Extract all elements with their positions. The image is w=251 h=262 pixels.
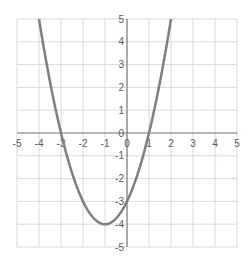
y-tick-label: 0 (118, 128, 124, 139)
x-tick-label: -5 (13, 138, 22, 149)
x-tick-label: 5 (234, 138, 240, 149)
y-tick-label: 4 (118, 36, 124, 47)
parabola-chart: -5-4-3-2-1012345 -5-4-3-2-1012345 (0, 0, 251, 262)
y-tick-label: -1 (115, 150, 124, 161)
y-tick-label: 2 (118, 82, 124, 93)
x-tick-label: -4 (35, 138, 44, 149)
y-tick-label: -5 (115, 242, 124, 253)
x-axis-tick-labels: -5-4-3-2-1012345 (13, 138, 241, 149)
y-tick-label: 1 (118, 105, 124, 116)
x-tick-label: 0 (124, 138, 130, 149)
x-tick-label: -2 (79, 138, 88, 149)
y-tick-label: -3 (115, 196, 124, 207)
x-tick-label: 3 (190, 138, 196, 149)
x-tick-label: 2 (168, 138, 174, 149)
y-tick-label: 5 (118, 14, 124, 25)
x-tick-label: 4 (212, 138, 218, 149)
y-tick-label: -4 (115, 219, 124, 230)
x-tick-label: -1 (101, 138, 110, 149)
axes (17, 19, 237, 247)
y-tick-label: 3 (118, 59, 124, 70)
y-tick-label: -2 (115, 173, 124, 184)
